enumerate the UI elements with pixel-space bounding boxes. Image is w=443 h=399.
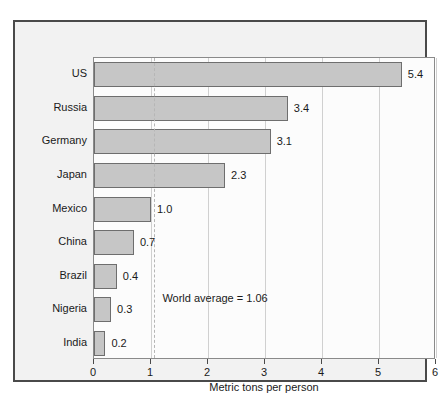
bar-germany[interactable] [94,129,271,154]
x-tick-label-4: 4 [318,366,324,378]
category-label-mexico: Mexico [17,196,87,221]
category-label-us: US [17,61,87,86]
x-tick-mark-1 [150,359,151,364]
chart-panel-frame: USRussiaGermanyJapanMexicoChinaBrazilNig… [13,20,427,382]
average-dashed-line [154,58,155,358]
x-tick-mark-2 [207,359,208,364]
x-tick-mark-5 [378,359,379,364]
bar-value-germany: 3.1 [277,129,292,154]
gridline-4 [322,58,323,358]
bar-russia[interactable] [94,96,288,121]
chart-screenshot: USRussiaGermanyJapanMexicoChinaBrazilNig… [0,0,443,399]
category-label-india: India [17,330,87,355]
x-tick-label-3: 3 [261,366,267,378]
bar-japan[interactable] [94,163,225,188]
x-tick-mark-4 [321,359,322,364]
gridline-5 [379,58,380,358]
gridline-6 [436,58,437,358]
bar-value-us: 5.4 [408,62,423,87]
x-tick-mark-3 [264,359,265,364]
bar-china[interactable] [94,230,134,255]
category-label-japan: Japan [17,162,87,187]
bar-value-china: 0.7 [140,230,155,255]
bar-value-russia: 3.4 [294,96,309,121]
x-axis-title: Metric tons per person [93,381,435,393]
bar-brazil[interactable] [94,264,117,289]
category-label-china: China [17,229,87,254]
x-tick-mark-0 [93,359,94,364]
bar-value-india: 0.2 [111,331,126,356]
bar-value-mexico: 1.0 [157,197,172,222]
bar-mexico[interactable] [94,197,151,222]
category-label-brazil: Brazil [17,263,87,288]
world-average-annotation: World average = 1.06 [162,292,267,304]
bar-india[interactable] [94,331,105,356]
category-label-russia: Russia [17,95,87,120]
category-label-nigeria: Nigeria [17,296,87,321]
x-tick-label-0: 0 [90,366,96,378]
x-tick-mark-6 [435,359,436,364]
x-axis: 0123456 [93,359,435,383]
category-label-germany: Germany [17,128,87,153]
bar-nigeria[interactable] [94,297,111,322]
x-tick-label-6: 6 [432,366,438,378]
x-tick-label-5: 5 [375,366,381,378]
bar-value-brazil: 0.4 [123,264,138,289]
bar-us[interactable] [94,62,402,87]
category-axis-labels: USRussiaGermanyJapanMexicoChinaBrazilNig… [15,57,87,359]
plot-area: 5.43.43.12.31.00.70.40.30.2 World averag… [93,57,435,359]
bar-value-nigeria: 0.3 [117,297,132,322]
x-tick-label-2: 2 [204,366,210,378]
bar-value-japan: 2.3 [231,163,246,188]
x-tick-label-1: 1 [147,366,153,378]
